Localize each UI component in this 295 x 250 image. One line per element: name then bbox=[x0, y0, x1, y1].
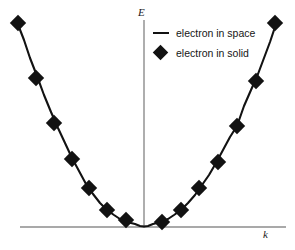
legend-item-electron-in-space: electron in space bbox=[151, 23, 283, 43]
data-point-marker bbox=[10, 15, 26, 31]
line-segment-icon bbox=[151, 24, 175, 42]
data-point-marker bbox=[64, 151, 80, 167]
data-point-marker bbox=[154, 214, 170, 230]
data-point-marker bbox=[118, 212, 134, 228]
legend: electron in space electron in solid bbox=[151, 23, 283, 63]
data-point-marker bbox=[229, 118, 245, 134]
legend-item-electron-in-solid: electron in solid bbox=[151, 43, 283, 63]
x-axis-label: k bbox=[263, 229, 268, 240]
data-point-marker bbox=[248, 73, 264, 89]
y-axis-label: E bbox=[138, 7, 145, 18]
legend-label: electron in space bbox=[175, 27, 255, 39]
legend-label: electron in solid bbox=[175, 47, 249, 59]
diamond-marker-icon bbox=[151, 44, 175, 62]
figure-container: E k electron in space electron in solid bbox=[0, 0, 295, 250]
data-point-marker bbox=[28, 70, 44, 86]
data-point-marker bbox=[81, 180, 97, 196]
data-point-marker bbox=[46, 115, 62, 131]
